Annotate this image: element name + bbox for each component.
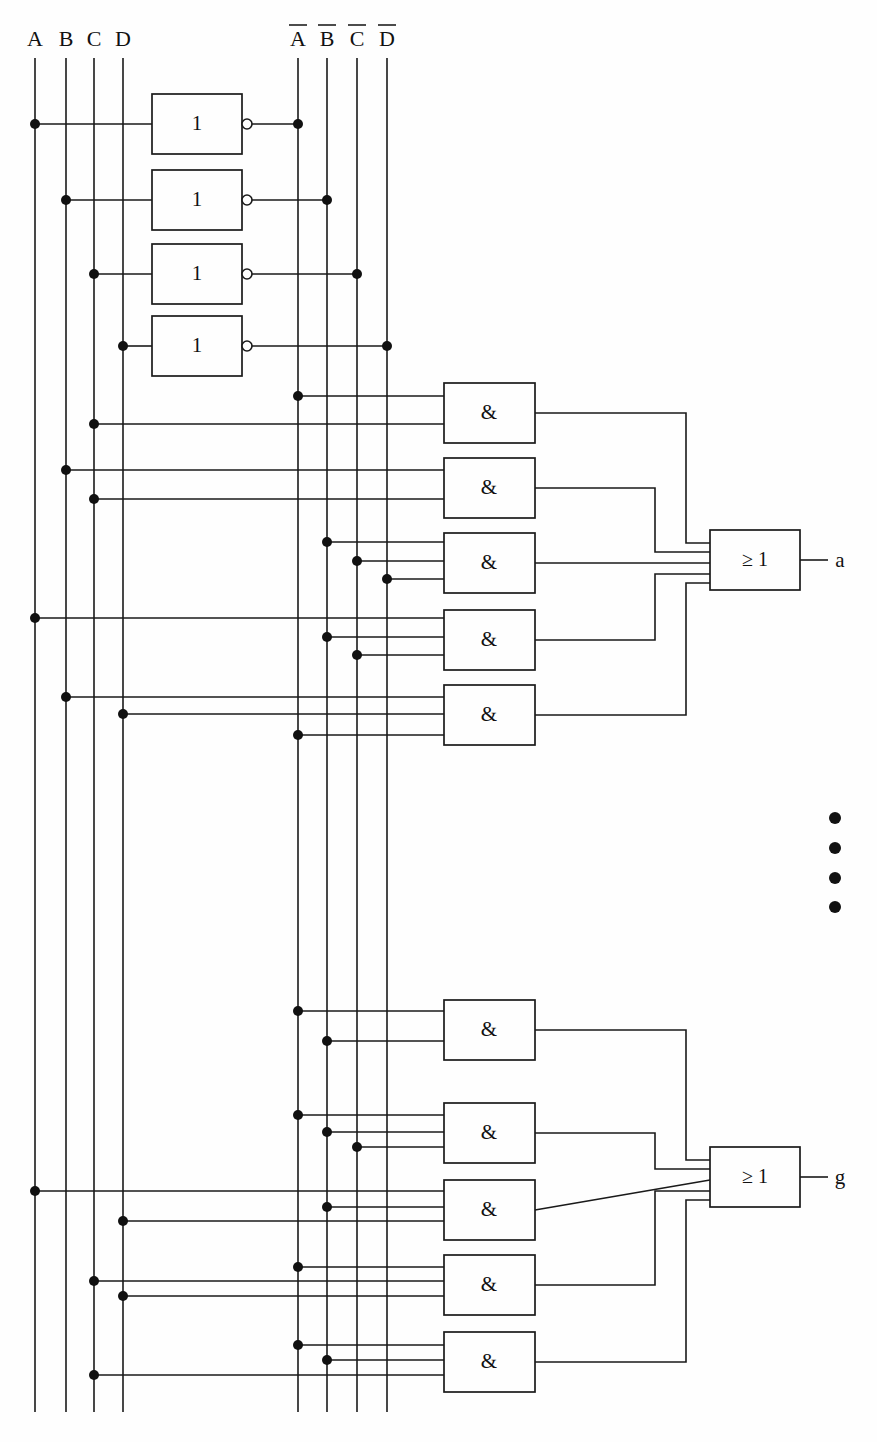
- junction-and8-C: [118, 1216, 128, 1226]
- and-gate-2-label: &: [481, 475, 497, 499]
- and-gate-2[interactable]: &: [61, 458, 710, 552]
- or-gate-a[interactable]: ≥ 1 a: [710, 530, 845, 590]
- junction-and2-B: [61, 465, 71, 475]
- junction-and1-C: [89, 419, 99, 429]
- junction-and6-nB: [322, 1036, 332, 1046]
- and-block-upper: & & &: [30, 383, 845, 745]
- junction-A-inverter: [30, 119, 40, 129]
- junction-and3-nB: [322, 537, 332, 547]
- and-gate-7-output-wire: [535, 1133, 710, 1169]
- inverter-d-label: 1: [192, 333, 203, 357]
- junction-A-bar-inverter: [293, 119, 303, 129]
- junction-and1-nA: [293, 391, 303, 401]
- junction-and8-A: [30, 1186, 40, 1196]
- junction-and7-nB: [322, 1127, 332, 1137]
- input-label-C: C: [87, 26, 102, 51]
- inverter-c[interactable]: 1: [89, 244, 362, 304]
- and-gate-1-label: &: [481, 400, 497, 424]
- junction-and4-A: [30, 613, 40, 623]
- and-gate-4-output-wire: [535, 574, 710, 640]
- input-label-A-bar: A: [290, 26, 306, 51]
- input-label-B: B: [59, 26, 74, 51]
- junction-and10-C: [89, 1370, 99, 1380]
- inverter-c-not-bubble: [242, 269, 252, 279]
- inverter-d[interactable]: 1: [118, 316, 392, 376]
- input-label-C-bar: C: [350, 26, 365, 51]
- junction-and7-nA: [293, 1110, 303, 1120]
- and-block-lower: & &: [30, 1000, 846, 1392]
- junction-and5-D: [118, 709, 128, 719]
- input-label-D-bar: D: [379, 26, 395, 51]
- junction-C-inverter: [89, 269, 99, 279]
- ellipsis-dot-2: [829, 842, 841, 854]
- and-gate-8-label: &: [481, 1197, 497, 1221]
- and-gate-10-output-wire: [535, 1200, 710, 1362]
- and-gate-3-label: &: [481, 550, 497, 574]
- and-gate-1-output-wire: [535, 413, 710, 543]
- junction-D-inverter: [118, 341, 128, 351]
- input-label-D: D: [115, 26, 131, 51]
- input-labels-group: A B C D: [27, 26, 131, 51]
- or-gate-a-label: ≥ 1: [742, 548, 768, 570]
- junction-and8-nB: [322, 1202, 332, 1212]
- inverter-a[interactable]: 1: [30, 94, 303, 154]
- junction-and9-nA: [293, 1262, 303, 1272]
- junction-and5-B: [61, 692, 71, 702]
- and-gate-4-label: &: [481, 627, 497, 651]
- and-gate-10-label: &: [481, 1349, 497, 1373]
- inverter-a-not-bubble: [242, 119, 252, 129]
- output-label-g: g: [835, 1165, 846, 1189]
- inverter-a-label: 1: [192, 111, 203, 135]
- junction-and2-C: [89, 494, 99, 504]
- and-gate-8-output-line: [535, 1180, 710, 1210]
- inverter-d-not-bubble: [242, 341, 252, 351]
- and-gate-8[interactable]: &: [30, 1180, 710, 1240]
- ellipsis-dot-4: [829, 901, 841, 913]
- logic-circuit-svg: A B C D A B C D: [0, 0, 877, 1442]
- or-gate-g-label: ≥ 1: [742, 1165, 768, 1187]
- input-label-A: A: [27, 26, 43, 51]
- junction-and4-nC: [352, 650, 362, 660]
- input-label-B-bar: B: [320, 26, 335, 51]
- junction-and3-nC: [352, 556, 362, 566]
- junction-C-bar-inverter: [352, 269, 362, 279]
- inverters-group: 1 1 1: [30, 94, 392, 376]
- junction-and10-nB: [322, 1355, 332, 1365]
- and-gate-5[interactable]: &: [61, 583, 710, 745]
- ellipsis-dot-1: [829, 812, 841, 824]
- inverted-input-labels-group: A B C D: [289, 25, 396, 51]
- junction-and9-C: [118, 1291, 128, 1301]
- and-gate-2-output-wire: [535, 488, 710, 552]
- and-gate-7-label: &: [481, 1120, 497, 1144]
- and-gate-9[interactable]: &: [89, 1191, 710, 1315]
- junction-and10-nA: [293, 1340, 303, 1350]
- and-gate-3[interactable]: &: [322, 533, 710, 593]
- junction-D-bar-inverter: [382, 341, 392, 351]
- and-gate-6-label: &: [481, 1017, 497, 1041]
- vertical-ellipsis: [829, 812, 841, 913]
- inverter-b-label: 1: [192, 187, 203, 211]
- inverter-b[interactable]: 1: [61, 170, 332, 230]
- and-gate-5-output-wire: [535, 583, 710, 715]
- output-label-a: a: [835, 548, 845, 572]
- junction-B-bar-inverter: [322, 195, 332, 205]
- ellipsis-dot-3: [829, 872, 841, 884]
- junction-and9-B: [89, 1276, 99, 1286]
- junction-and5-nA: [293, 730, 303, 740]
- and-gate-4[interactable]: &: [30, 574, 710, 670]
- junction-and4-nB: [322, 632, 332, 642]
- and-gate-6-output-wire: [535, 1030, 710, 1160]
- inverter-c-label: 1: [192, 261, 203, 285]
- and-gate-1[interactable]: &: [89, 383, 710, 543]
- junction-and7-nC: [352, 1142, 362, 1152]
- inverter-b-not-bubble: [242, 195, 252, 205]
- circuit-diagram-canvas: A B C D A B C D: [0, 0, 877, 1442]
- and-gate-9-label: &: [481, 1272, 497, 1296]
- junction-B-inverter: [61, 195, 71, 205]
- junction-and6-nA: [293, 1006, 303, 1016]
- and-gate-7[interactable]: &: [293, 1103, 710, 1169]
- and-gate-5-label: &: [481, 702, 497, 726]
- or-gate-g[interactable]: ≥ 1 g: [710, 1147, 846, 1207]
- junction-and3-nD: [382, 574, 392, 584]
